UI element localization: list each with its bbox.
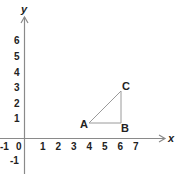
x-tick-label: 1 bbox=[40, 141, 46, 152]
y-tick-label: 6 bbox=[14, 35, 20, 46]
x-axis-label: x bbox=[167, 132, 175, 144]
x-tick-label: 2 bbox=[56, 141, 62, 152]
x-tick-label: 0 bbox=[16, 141, 22, 152]
x-tick-label: -1 bbox=[0, 141, 9, 152]
triangle-shape bbox=[89, 91, 121, 123]
x-tick-labels: -1 0 1 2 3 4 5 6 7 bbox=[0, 141, 139, 152]
coordinate-plane: x y -1 0 1 2 3 4 5 6 7 6 5 4 3 2 1 -1 A … bbox=[0, 0, 177, 175]
x-tick-label: 3 bbox=[71, 141, 77, 152]
triangle-abc: A B C bbox=[80, 80, 130, 134]
y-tick-label: 4 bbox=[14, 67, 20, 78]
y-tick-label: 2 bbox=[14, 98, 20, 109]
y-tick-label: -1 bbox=[10, 155, 19, 166]
x-tick-label: 7 bbox=[133, 141, 139, 152]
point-label-a: A bbox=[80, 118, 88, 130]
y-tick-label: 3 bbox=[14, 82, 20, 93]
y-tick-label: 5 bbox=[14, 51, 20, 62]
x-tick-label: 4 bbox=[87, 141, 93, 152]
y-tick-label: 1 bbox=[14, 113, 20, 124]
point-label-c: C bbox=[122, 80, 130, 92]
point-label-b: B bbox=[121, 122, 129, 134]
y-axis-label: y bbox=[20, 3, 28, 15]
x-tick-label: 6 bbox=[118, 141, 124, 152]
x-tick-label: 5 bbox=[102, 141, 108, 152]
